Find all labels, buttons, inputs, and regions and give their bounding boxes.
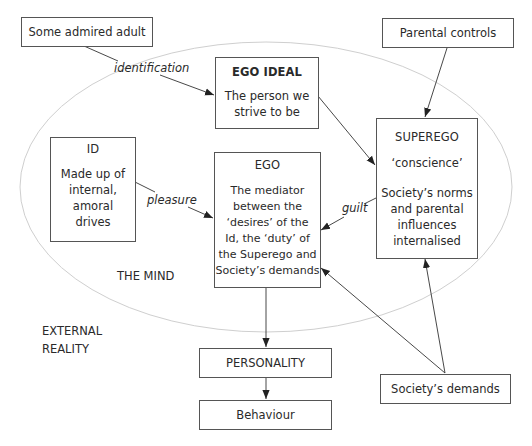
edge-admired-to-egoideal-a (84, 46, 118, 61)
text-line: Made up of (61, 166, 125, 182)
text-line: influences (381, 217, 473, 233)
edge-admired-to-egoideal-b (160, 75, 214, 95)
node-parental-controls: Parental controls (382, 18, 514, 48)
edge-label-guilt: guilt (342, 201, 368, 216)
node-superego-subtitle: ‘conscience’ (391, 155, 462, 171)
node-id: ID Made up of internal, amoral drives (50, 137, 136, 242)
text-line: Society’s norms (381, 185, 473, 201)
node-superego: SUPEREGO ‘conscience’ Society’s norms an… (376, 118, 478, 259)
node-superego-title: SUPEREGO (395, 129, 459, 145)
node-societys-demands: Society’s demands (380, 374, 511, 404)
node-personality: PERSONALITY (199, 348, 332, 378)
node-id-title: ID (87, 141, 99, 157)
text-line: ‘desires’ of the (215, 215, 319, 231)
region-label-external-reality: EXTERNAL REALITY (42, 322, 102, 358)
text-line: drives (61, 214, 125, 230)
node-ego-title: EGO (255, 157, 281, 173)
node-ego-ideal: EGO IDEAL The person we strive to be (215, 57, 319, 129)
edge-society-to-superego (425, 259, 445, 373)
edge-egoideal-to-superego (318, 96, 375, 165)
node-ego-ideal-title: EGO IDEAL (232, 64, 302, 80)
text-line: amoral (61, 198, 125, 214)
node-ego-ideal-body: The person we strive to be (225, 88, 310, 120)
node-societys-demands-label: Society’s demands (391, 381, 500, 397)
region-label-the-mind: THE MIND (117, 269, 174, 284)
text-line: internal, (61, 182, 125, 198)
text-line: strive to be (225, 104, 310, 120)
text-line: the Superego and (215, 247, 319, 263)
node-ego-body: The mediator between the ‘desires’ of th… (215, 183, 319, 279)
text-line: between the (215, 199, 319, 215)
node-parental-controls-label: Parental controls (400, 25, 497, 41)
text-line: The person we (225, 88, 310, 104)
node-admired-adult: Some admired adult (21, 17, 153, 47)
edge-label-pleasure: pleasure (147, 193, 197, 208)
edge-id-to-ego-a (135, 182, 155, 192)
text-line: and parental (381, 201, 473, 217)
node-admired-adult-label: Some admired adult (29, 24, 146, 40)
text-line: Id, the ‘duty’ of (215, 231, 319, 247)
edge-superego-to-ego-b (321, 217, 344, 230)
text-line: REALITY (42, 340, 102, 358)
node-behaviour: Behaviour (199, 400, 332, 430)
node-id-body: Made up of internal, amoral drives (61, 166, 125, 230)
text-line: Society’s demands (215, 263, 319, 279)
node-ego: EGO The mediator between the ‘desires’ o… (214, 152, 321, 288)
edge-society-to-ego (321, 268, 445, 373)
text-line: EXTERNAL (42, 322, 102, 340)
text-line: internalised (381, 233, 473, 249)
edge-id-to-ego-b (188, 207, 213, 218)
text-line: The mediator (215, 183, 319, 199)
edge-label-identification: identification (114, 61, 189, 76)
node-superego-body: Society’s norms and parental influences … (381, 185, 473, 249)
node-personality-label: PERSONALITY (226, 355, 305, 371)
edge-parental-to-superego (425, 48, 447, 117)
node-behaviour-label: Behaviour (236, 407, 294, 423)
